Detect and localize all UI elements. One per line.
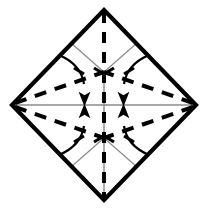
origami-fold-diagram xyxy=(0,0,207,212)
fold-diagram-canvas xyxy=(0,0,207,212)
